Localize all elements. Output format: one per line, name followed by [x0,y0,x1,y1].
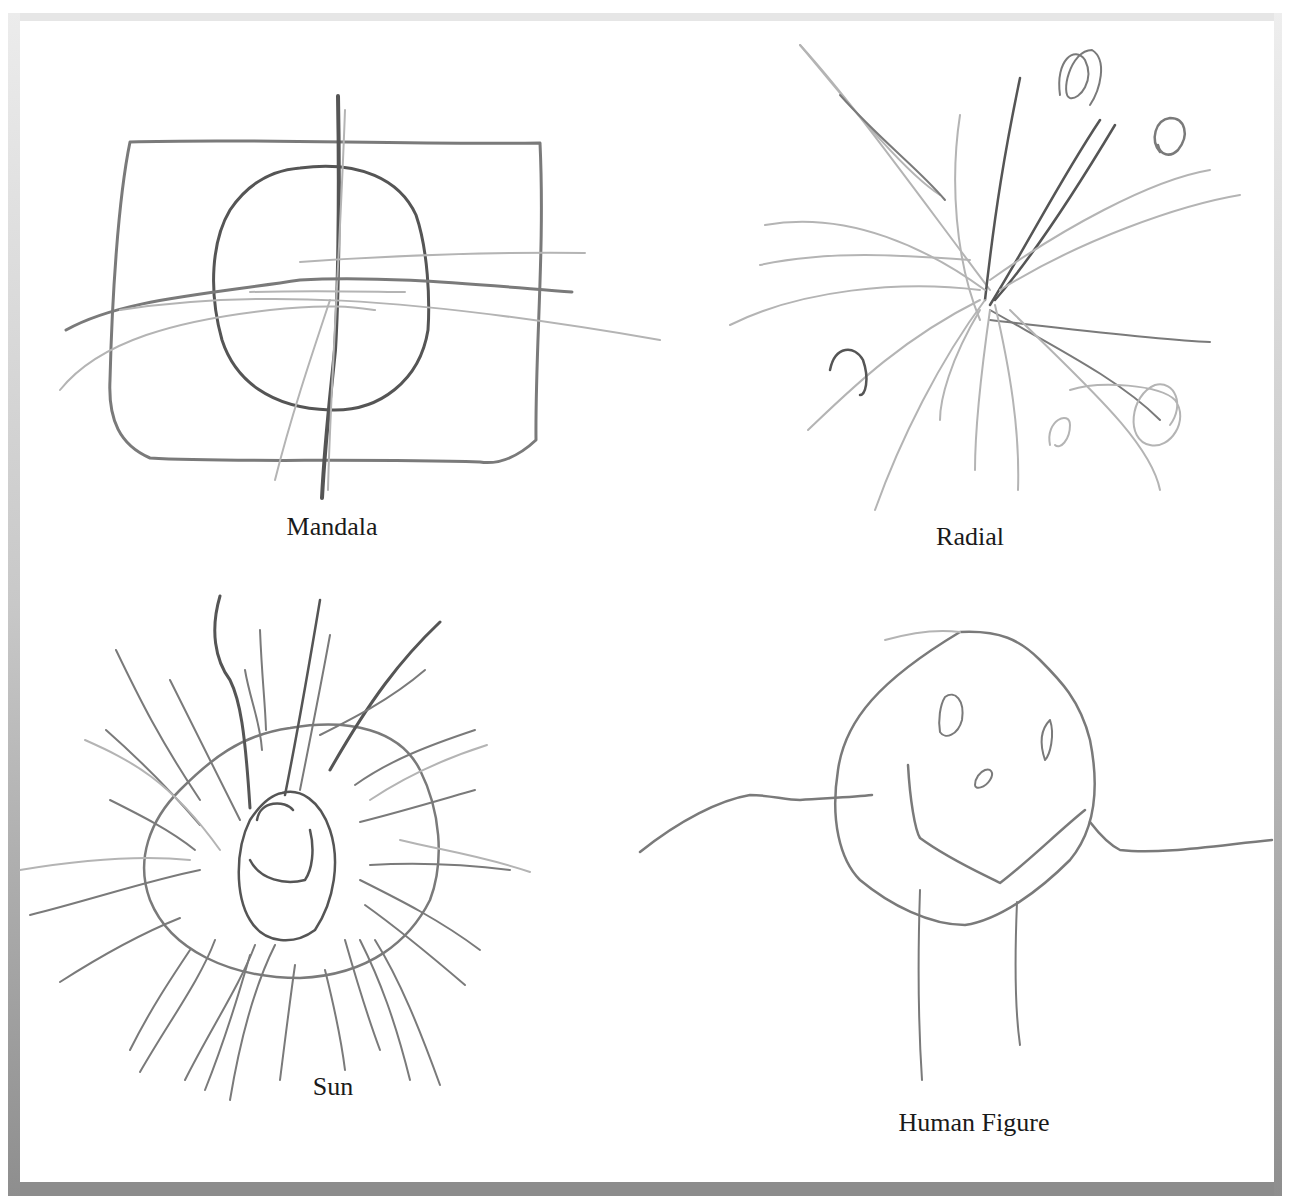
caption-human-figure: Human Figure [899,1108,1050,1138]
sun-drawing [20,596,530,1100]
mandala-drawing [60,96,660,498]
human-figure-drawing [640,631,1272,1080]
radial-drawing [730,45,1240,510]
caption-radial: Radial [936,522,1004,552]
caption-sun: Sun [313,1072,353,1102]
caption-mandala: Mandala [287,512,378,542]
